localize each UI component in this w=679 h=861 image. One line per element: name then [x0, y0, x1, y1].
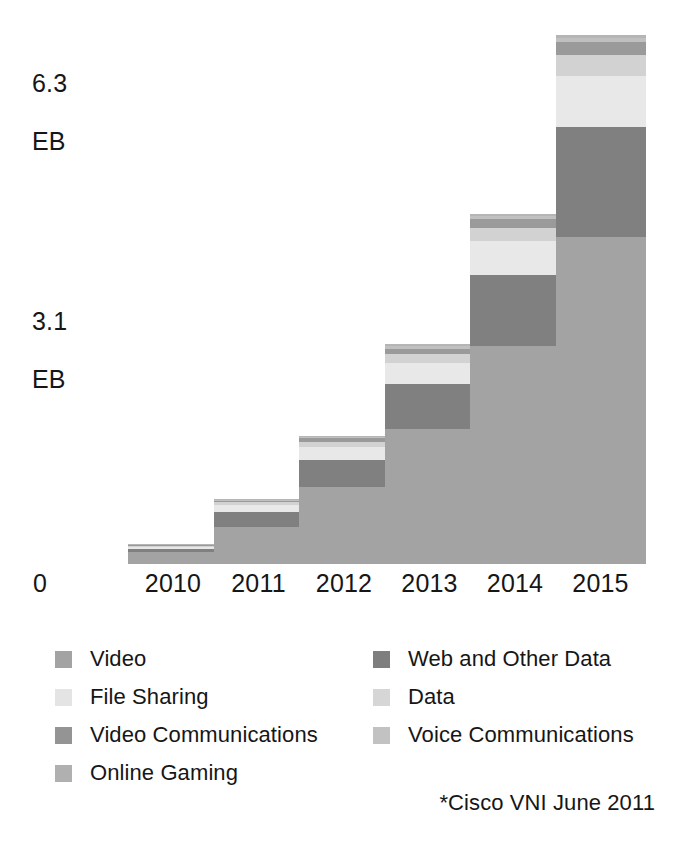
legend-label-video: Video	[90, 646, 146, 672]
bar-segment-file-sharing-2013	[385, 363, 475, 385]
x-axis-tick-2014: 2014	[470, 568, 560, 598]
x-axis: 0 201020112012201320142015	[0, 568, 679, 608]
x-axis-tick-2013: 2013	[385, 568, 475, 598]
bar-segment-web-and-other-data-2015	[556, 127, 646, 238]
bar-segment-web-and-other-data-2012	[299, 460, 389, 487]
bar-segment-data-2013	[385, 354, 475, 362]
legend-item-file-sharing[interactable]: File Sharing	[55, 678, 375, 716]
bar-segment-web-and-other-data-2011	[214, 512, 304, 526]
legend-label-voice-communications: Voice Communications	[408, 722, 634, 748]
bar-2011	[214, 499, 304, 564]
legend-item-online-gaming[interactable]: Online Gaming	[55, 754, 375, 792]
bar-segment-file-sharing-2014	[470, 241, 560, 274]
legend-column-left: VideoFile SharingVideo CommunicationsOnl…	[55, 640, 375, 792]
bar-segment-file-sharing-2015	[556, 76, 646, 127]
bar-segment-video-communications-2014	[470, 219, 560, 228]
x-axis-tick-2010: 2010	[128, 568, 218, 598]
legend-item-data[interactable]: Data	[373, 678, 673, 716]
legend-label-web-and-other-data: Web and Other Data	[408, 646, 611, 672]
legend-label-file-sharing: File Sharing	[90, 684, 209, 710]
bar-segment-video-2015	[556, 237, 646, 564]
chart-footnote: *Cisco VNI June 2011	[439, 790, 655, 816]
legend-swatch-web-and-other-data	[373, 651, 390, 668]
x-axis-tick-2015: 2015	[556, 568, 646, 598]
bar-segment-file-sharing-2011	[214, 505, 304, 512]
legend-label-video-communications: Video Communications	[90, 722, 318, 748]
legend-item-video-communications[interactable]: Video Communications	[55, 716, 375, 754]
legend-item-video[interactable]: Video	[55, 640, 375, 678]
bar-segment-video-2012	[299, 487, 389, 564]
x-axis-tick-2012: 2012	[299, 568, 389, 598]
x-axis-tick-2011: 2011	[214, 568, 304, 598]
x-axis-origin-label: 0	[20, 568, 60, 598]
bar-2013	[385, 344, 475, 564]
bar-segment-video-2014	[470, 346, 560, 564]
bar-segment-web-and-other-data-2014	[470, 275, 560, 347]
legend-column-right: Web and Other DataDataVoice Communicatio…	[373, 640, 673, 754]
legend-swatch-video-communications	[55, 727, 72, 744]
bar-segment-video-2010	[128, 552, 218, 564]
plot-area	[0, 40, 679, 564]
bar-segment-web-and-other-data-2013	[385, 384, 475, 429]
stacked-bar-chart: 6.3 EB 3.1 EB 0 201020112012201320142015…	[0, 0, 679, 861]
legend-swatch-video	[55, 651, 72, 668]
legend-item-voice-communications[interactable]: Voice Communications	[373, 716, 673, 754]
bar-segment-file-sharing-2012	[299, 447, 389, 460]
bar-2015	[556, 35, 646, 564]
legend-swatch-voice-communications	[373, 727, 390, 744]
legend-swatch-data	[373, 689, 390, 706]
legend-label-online-gaming: Online Gaming	[90, 760, 238, 786]
legend-label-data: Data	[408, 684, 455, 710]
bar-segment-video-2011	[214, 527, 304, 564]
legend-swatch-file-sharing	[55, 689, 72, 706]
bar-segment-video-communications-2015	[556, 42, 646, 55]
legend-swatch-online-gaming	[55, 765, 72, 782]
bar-2014	[470, 214, 560, 564]
bar-segment-video-2013	[385, 429, 475, 564]
bar-2010	[128, 544, 218, 564]
bar-segment-data-2014	[470, 228, 560, 241]
bar-segment-data-2015	[556, 55, 646, 76]
bar-2012	[299, 436, 389, 564]
legend-item-web-and-other-data[interactable]: Web and Other Data	[373, 640, 673, 678]
